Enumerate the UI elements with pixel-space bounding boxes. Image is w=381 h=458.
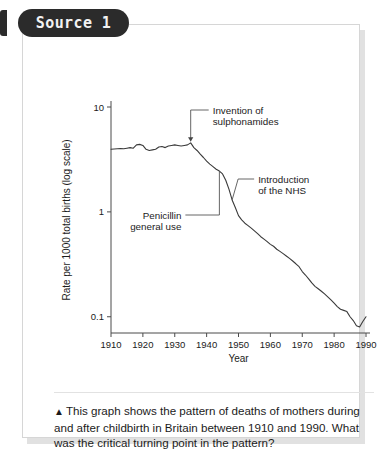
annotation-leader-penicillin [185, 171, 219, 215]
triangle-icon: ▲ [54, 406, 64, 417]
annotation-label-penicillin-line2: general use [130, 221, 182, 232]
data-line-maternal-mortality [111, 143, 366, 327]
annotation-arrowhead-sulphonamides [188, 137, 193, 142]
annotation-label-nhs-line2: of the NHS [258, 185, 306, 196]
annotation-label-sulphonamides-line2: sulphonamides [213, 116, 279, 127]
annotation-label-nhs-line1: Introduction [258, 174, 309, 185]
y-tick-label: 0.1 [91, 311, 104, 322]
x-tick-label: 1990 [355, 339, 376, 350]
annotation-label-sulphonamides-line1: Invention of [213, 105, 264, 116]
x-tick-label: 1910 [100, 339, 121, 350]
source-caption: ▲This graph shows the pattern of deaths … [54, 403, 376, 451]
annotation-label-penicillin-line1: Penicillin [143, 210, 182, 221]
x-tick-label: 1980 [324, 339, 345, 350]
chart-container: 1010.11910192019301940195019601970198019… [46, 65, 381, 365]
page-edge-fragment [0, 10, 7, 36]
source-label-pill: Source 1 [18, 9, 129, 37]
caption-text: This graph shows the pattern of deaths o… [54, 404, 360, 449]
x-tick-label: 1970 [292, 339, 313, 350]
y-tick-label: 10 [93, 102, 104, 113]
source-box: 1010.11910192019301940195019601970198019… [22, 24, 360, 438]
x-tick-label: 1920 [132, 339, 153, 350]
x-tick-label: 1940 [196, 339, 217, 350]
annotation-leader-sulphonamides [191, 110, 209, 139]
y-axis-title: Rate per 1000 total births (log scale) [61, 139, 72, 300]
y-tick-label: 1 [99, 206, 104, 217]
x-axis-title: Year [228, 353, 249, 364]
annotation-leader-nhs [232, 179, 254, 200]
x-tick-label: 1950 [228, 339, 249, 350]
source-label-text: Source 1 [36, 14, 111, 32]
maternal-mortality-chart: 1010.11910192019301940195019601970198019… [46, 65, 381, 365]
x-tick-label: 1930 [164, 339, 185, 350]
caption-divider [54, 392, 374, 393]
x-tick-label: 1960 [260, 339, 281, 350]
